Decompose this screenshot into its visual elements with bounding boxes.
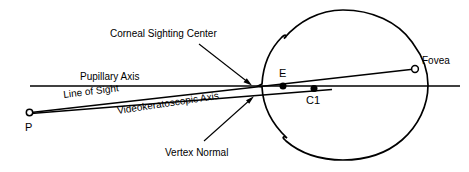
point-c1-marker bbox=[311, 85, 318, 92]
label-point-c1: C1 bbox=[306, 95, 320, 106]
point-p-marker bbox=[26, 109, 32, 115]
point-e-marker bbox=[280, 83, 287, 90]
ocular-axes-diagram: Corneal Sighting Center Pupillary Axis L… bbox=[0, 0, 469, 172]
label-pupillary-axis: Pupillary Axis bbox=[80, 72, 139, 82]
label-fovea: Fovea bbox=[422, 56, 450, 66]
label-vertex-normal: Vertex Normal bbox=[165, 148, 228, 158]
label-point-p: P bbox=[25, 122, 32, 133]
vertex-normal-leader bbox=[204, 99, 251, 141]
fovea-marker bbox=[412, 66, 419, 73]
label-point-e: E bbox=[279, 68, 286, 79]
corneal-sighting-center-leader bbox=[199, 44, 249, 83]
diagram-canvas bbox=[0, 0, 469, 172]
label-corneal-sighting-center: Corneal Sighting Center bbox=[110, 29, 217, 39]
